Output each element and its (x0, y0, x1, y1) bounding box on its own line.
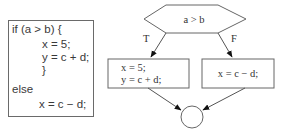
decision-label: a > b (183, 14, 204, 25)
false-edge-label: F (231, 33, 237, 44)
true-to-join-edge (148, 88, 181, 110)
false-edge (218, 33, 232, 57)
true-edge-label: T (143, 33, 150, 44)
true-process-line-2: y = c + d; (121, 74, 162, 85)
flowchart: a > b T F x = 5; y = c + d; x = c − d; (0, 0, 285, 135)
decision-node: a > b (144, 5, 246, 33)
false-to-join-edge (203, 88, 245, 110)
true-process-node: x = 5; y = c + d; (108, 59, 189, 88)
false-process-node: x = c − d; (202, 59, 274, 88)
true-process-line-1: x = 5; (121, 62, 146, 73)
join-node (181, 106, 203, 128)
true-edge (151, 33, 166, 57)
false-process-line-1: x = c − d; (218, 68, 259, 79)
